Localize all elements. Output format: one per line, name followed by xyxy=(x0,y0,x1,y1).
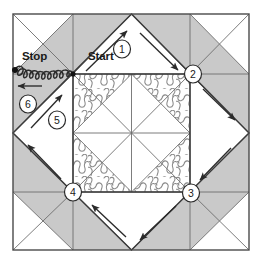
start-label: Start xyxy=(88,51,114,63)
step-label-2: 2 xyxy=(185,66,202,83)
step-label-6: 6 xyxy=(20,96,37,113)
stop-node xyxy=(12,67,18,73)
step-label-3: 3 xyxy=(183,185,200,202)
stop-label: Stop xyxy=(22,51,47,63)
quilt-diagram-canvas: Start Stop 1 2 3 4 5 6 xyxy=(0,0,262,264)
step-label-1: 1 xyxy=(114,41,131,58)
start-node xyxy=(70,71,75,76)
step-label-5: 5 xyxy=(49,112,66,129)
step-label-4: 4 xyxy=(65,184,82,201)
quilt-block-svg xyxy=(0,0,262,264)
